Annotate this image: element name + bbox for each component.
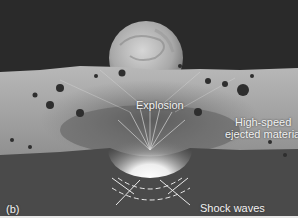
shock-waves-label: Shock waves xyxy=(200,202,265,214)
bottom-border xyxy=(0,216,298,218)
panel-label: (b) xyxy=(6,203,19,215)
ejecta-label-line2: ejected material xyxy=(225,128,298,140)
explosion-label: Explosion xyxy=(136,99,184,111)
ejecta-label-line1: High-speed xyxy=(235,116,291,128)
impact-crater-illustration: Explosion High-speed ejected material Sh… xyxy=(0,0,298,218)
